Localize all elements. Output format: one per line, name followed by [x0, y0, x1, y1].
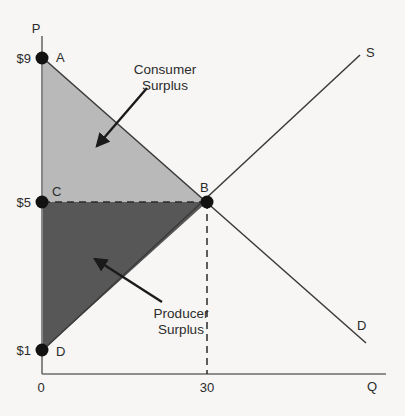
- point-c-label: C: [52, 184, 61, 199]
- point-a-marker: [36, 52, 49, 65]
- y-tick-label-5: $5: [17, 195, 31, 210]
- producer-surplus-label-line2: Surplus: [158, 322, 204, 337]
- chart-svg: P Q $9 $5 $1 0 30 A C D B S D Consumer S…: [0, 0, 405, 416]
- x-tick-label-origin: 0: [37, 380, 44, 395]
- supply-curve-label: S: [366, 45, 375, 60]
- point-d-label: D: [56, 344, 65, 359]
- point-c-marker: [36, 196, 49, 209]
- demand-curve-label: D: [357, 318, 366, 333]
- x-tick-label-30: 30: [200, 380, 214, 395]
- y-tick-label-1: $1: [17, 343, 31, 358]
- consumer-surplus-label-line1: Consumer: [134, 62, 197, 77]
- point-b-label: B: [200, 180, 209, 195]
- point-b-marker: [201, 196, 214, 209]
- x-axis-label: Q: [367, 379, 377, 394]
- point-a-label: A: [56, 50, 65, 65]
- supply-demand-surplus-diagram: P Q $9 $5 $1 0 30 A C D B S D Consumer S…: [0, 0, 405, 416]
- consumer-surplus-label-line2: Surplus: [142, 78, 188, 93]
- producer-surplus-label-line1: Producer: [154, 306, 209, 321]
- point-d-marker: [36, 344, 49, 357]
- y-tick-label-9: $9: [17, 51, 31, 66]
- y-axis-label: P: [32, 21, 41, 36]
